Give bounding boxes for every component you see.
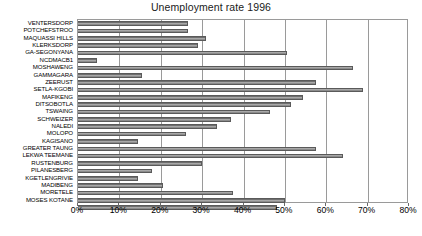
x-axis-tick [367,203,368,206]
y-axis-label: PILANESBERG [31,166,73,173]
x-axis-label: 40% [234,205,251,215]
bar [78,102,291,107]
bar-row [78,20,407,27]
y-axis-label: ZEERUST [45,78,73,85]
bar [78,110,270,115]
bar [78,58,97,63]
bar [78,169,152,174]
y-axis-label: POTCHEFSTROO [23,26,73,33]
bar-row [78,138,407,145]
x-axis-label: 10% [110,205,127,215]
bar [78,154,343,159]
x-axis-tick [325,203,326,206]
bar [78,117,231,122]
bar [78,183,163,188]
x-axis-tick [243,203,244,206]
y-axis-label: KLERKSDORP [32,41,73,48]
y-axis-label: NALEDI [52,122,73,129]
bar [78,124,217,129]
y-axis-label: MAFIKENG [42,93,73,100]
bar-row [78,72,407,79]
bar-row [78,145,407,152]
x-axis-tick [408,203,409,206]
bar [78,51,287,56]
y-axis-label: RUSTENBURG [31,159,73,166]
bar-row [78,42,407,49]
bar-row [78,175,407,182]
bar-row [78,94,407,101]
unemployment-rate-bar-chart: Unemployment rate 1996 VENTERSDORPPOTCHE… [0,0,422,236]
bar [78,36,206,41]
bar [78,80,316,85]
x-axis-label: 30% [193,205,210,215]
bar-row [78,57,407,64]
y-axis-category-labels: VENTERSDORPPOTCHEFSTROOMAQUASSI HILLSKLE… [0,19,75,203]
x-axis-label: 20% [151,205,168,215]
bar [78,88,363,93]
bar-row [78,101,407,108]
y-axis-label: MAQUASSI HILLS [24,34,73,41]
y-axis-label: MORETELE [40,188,73,195]
bar-row [78,152,407,159]
y-axis-label: MOSES KOTANE [26,196,73,203]
bar-row [78,160,407,167]
bar-row [78,189,407,196]
bar-row [78,27,407,34]
y-axis-label: DITSOBOTLA [35,100,73,107]
bar [78,21,188,26]
bar [78,132,186,137]
y-axis-label: LEKWA TEEMANE [22,151,73,158]
bar [78,191,233,196]
y-axis-label: VENTERSDORP [28,19,73,26]
y-axis-label: MOSHAWENG [33,63,73,70]
y-axis-label: NCDMACB1 [40,56,73,63]
y-axis-label: SCHWEIZER [37,115,73,122]
y-axis-label: TSWAING [45,107,73,114]
bar [78,95,303,100]
y-axis-label: MOLOPO [47,129,73,136]
x-axis-tick-labels: 0%10%20%30%40%50%60%70%80% [0,205,422,219]
bar-row [78,116,407,123]
y-axis-label: MADIBENG [41,181,73,188]
bar-row [78,35,407,42]
bar-row [78,79,407,86]
plot-area [77,19,408,203]
bar-row [78,123,407,130]
bar [78,147,316,152]
y-axis-label: GA-SEGONYANA [25,48,73,55]
bar [78,66,353,71]
x-axis-label: 60% [317,205,334,215]
y-axis-label: KAGISANO [42,137,73,144]
x-axis-tick [118,203,119,206]
bar [78,176,138,181]
bar-row [78,182,407,189]
y-axis-label: GREATER TAUNG [23,144,73,151]
x-axis-tick [77,203,78,206]
y-axis-label: SETLA-KGOBI [33,85,73,92]
bar [78,73,142,78]
bar-row [78,108,407,115]
bar-series [78,20,407,202]
x-axis-tick [201,203,202,206]
x-axis-label: 50% [275,205,292,215]
y-axis-label: KGETLENGRIVIE [25,174,73,181]
bar [78,161,202,166]
x-axis-label: 80% [399,205,416,215]
y-axis-label: GAMMAGARA [34,71,73,78]
chart-title: Unemployment rate 1996 [0,1,422,13]
bar-row [78,49,407,56]
bar-row [78,130,407,137]
bar-row [78,86,407,93]
bar [78,139,138,144]
x-axis-tick [160,203,161,206]
x-axis-label: 0% [71,205,83,215]
bar-row [78,64,407,71]
bar [78,198,285,203]
bar [78,43,198,48]
x-axis-tick [284,203,285,206]
bar [78,29,188,34]
bar-row [78,167,407,174]
x-axis-label: 70% [358,205,375,215]
